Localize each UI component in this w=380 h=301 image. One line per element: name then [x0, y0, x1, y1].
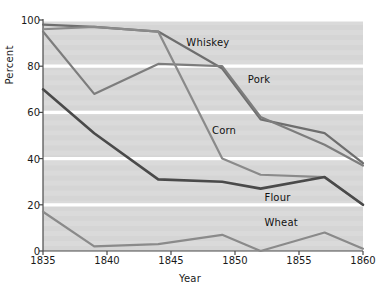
- texture-band: [43, 246, 363, 251]
- y-tick-label: 80: [10, 61, 40, 72]
- x-tick-label: 1835: [21, 255, 65, 266]
- texture-band: [43, 100, 363, 105]
- texture-band: [43, 196, 363, 201]
- y-tick-label: 20: [10, 199, 40, 210]
- series-label-wheat: Wheat: [264, 217, 297, 228]
- x-tick-label: 1855: [277, 255, 321, 266]
- texture-band: [43, 70, 363, 75]
- texture-band: [43, 95, 363, 100]
- texture-band: [43, 186, 363, 191]
- texture-band: [43, 211, 363, 216]
- x-tick-label: 1840: [85, 255, 129, 266]
- texture-band: [43, 75, 363, 80]
- texture-band: [43, 161, 363, 166]
- texture-band: [43, 105, 363, 110]
- texture-band: [43, 166, 363, 171]
- texture-band: [43, 191, 363, 196]
- y-tick-label: 40: [10, 153, 40, 164]
- x-tick-label: 1850: [213, 255, 257, 266]
- x-tick-label: 1845: [149, 255, 193, 266]
- texture-band: [43, 146, 363, 151]
- x-tick-label: 1860: [341, 255, 380, 266]
- series-label-pork: Pork: [248, 74, 271, 85]
- texture-band: [43, 50, 363, 55]
- texture-band: [43, 80, 363, 85]
- texture-band: [43, 151, 363, 156]
- line-chart-figure: Percent Year 020406080100 18351840184518…: [0, 0, 380, 301]
- texture-band: [43, 206, 363, 211]
- x-axis-title: Year: [0, 273, 380, 284]
- texture-band: [43, 30, 363, 35]
- series-label-whiskey: Whiskey: [186, 37, 229, 48]
- series-label-corn: Corn: [212, 125, 236, 136]
- series-label-flour: Flour: [264, 192, 290, 203]
- y-tick-label: 100: [10, 15, 40, 26]
- texture-band: [43, 216, 363, 221]
- texture-band: [43, 226, 363, 231]
- texture-band: [43, 171, 363, 176]
- y-tick-label: 60: [10, 107, 40, 118]
- plot-texture: [43, 20, 363, 251]
- texture-band: [43, 221, 363, 226]
